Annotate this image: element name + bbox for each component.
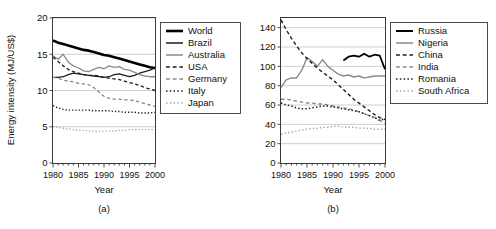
y-tick-labels-a: 05101520 xyxy=(37,12,48,168)
series-group-b xyxy=(281,20,385,134)
series-line-south-africa xyxy=(281,126,385,134)
y-tick-label: 40 xyxy=(265,119,276,130)
x-tick-label: 1985 xyxy=(297,170,317,180)
x-tick-label: 1980 xyxy=(271,170,291,180)
y-tick-label: 60 xyxy=(265,99,276,110)
chart-svg-b: 020406080100120140 19801985199019952000 … xyxy=(248,0,496,229)
legend-b[interactable]: RussiaNigeriaChinaIndiaRomaniaSouth Afri… xyxy=(391,23,488,104)
chart-svg-a: 05101520 19801985199019952000 Energy int… xyxy=(0,0,248,229)
y-tick-label: 10 xyxy=(37,85,48,96)
x-tick-label: 1980 xyxy=(43,170,63,180)
chart-panel-b: 020406080100120140 19801985199019952000 … xyxy=(248,0,496,229)
tickmarks-b xyxy=(278,28,386,168)
figure-sheet: 05101520 19801985199019952000 Energy int… xyxy=(0,0,496,229)
x-axis-label-b: Year xyxy=(323,184,342,195)
y-axis-label-a: Energy intensity (MJ/US$) xyxy=(5,35,16,145)
plot-frame-b xyxy=(281,18,386,164)
legend-label-brazil: Brazil xyxy=(188,37,212,48)
y-tick-label: 100 xyxy=(260,61,276,72)
x-tick-label: 1995 xyxy=(349,170,369,180)
legend-label-japan: Japan xyxy=(188,97,214,108)
legend-a[interactable]: WorldBrazilAustraliaUSAGermanyItalyJapan xyxy=(161,23,241,114)
legend-label-nigeria: Nigeria xyxy=(418,37,449,48)
x-tick-label: 2000 xyxy=(375,170,395,180)
series-line-russia xyxy=(343,54,385,69)
legend-label-india: India xyxy=(418,61,439,72)
legend-label-south-africa: South Africa xyxy=(418,85,470,96)
legend-label-romania: Romania xyxy=(418,73,457,84)
x-tick-label: 2000 xyxy=(145,170,165,180)
x-tick-label: 1990 xyxy=(323,170,343,180)
y-tick-label: 20 xyxy=(37,12,48,23)
y-tick-label: 140 xyxy=(260,22,276,33)
panel-caption-b: (b) xyxy=(327,203,339,214)
tickmarks-a xyxy=(50,18,156,168)
legend-label-germany: Germany xyxy=(188,73,227,84)
legend-label-world: World xyxy=(188,25,213,36)
x-tick-label: 1990 xyxy=(94,170,114,180)
x-tick-labels-b: 19801985199019952000 xyxy=(271,170,395,180)
y-tick-label: 0 xyxy=(270,157,275,168)
x-tick-labels-a: 19801985199019952000 xyxy=(43,170,165,180)
chart-panel-a: 05101520 19801985199019952000 Energy int… xyxy=(0,0,248,229)
legend-label-australia: Australia xyxy=(188,49,226,60)
series-line-japan xyxy=(53,127,155,131)
x-axis-label-a: Year xyxy=(94,184,113,195)
y-tick-label: 80 xyxy=(265,80,276,91)
y-tick-label: 0 xyxy=(42,157,47,168)
y-tick-labels-b: 020406080100120140 xyxy=(260,22,276,168)
legend-label-russia: Russia xyxy=(418,25,448,36)
legend-label-italy: Italy xyxy=(188,85,206,96)
legend-label-china: China xyxy=(418,49,444,60)
y-tick-label: 120 xyxy=(260,41,276,52)
legend-label-usa: USA xyxy=(188,61,208,72)
gridlines-b xyxy=(281,28,385,144)
y-tick-label: 15 xyxy=(37,49,48,60)
gridlines-a xyxy=(53,18,155,127)
series-line-germany xyxy=(53,77,155,106)
panel-caption-a: (a) xyxy=(98,203,110,214)
x-tick-label: 1985 xyxy=(68,170,88,180)
y-tick-label: 20 xyxy=(265,138,276,149)
x-tick-label: 1995 xyxy=(119,170,139,180)
series-line-nigeria xyxy=(281,58,385,88)
y-tick-label: 5 xyxy=(42,121,47,132)
series-line-italy xyxy=(53,106,155,113)
